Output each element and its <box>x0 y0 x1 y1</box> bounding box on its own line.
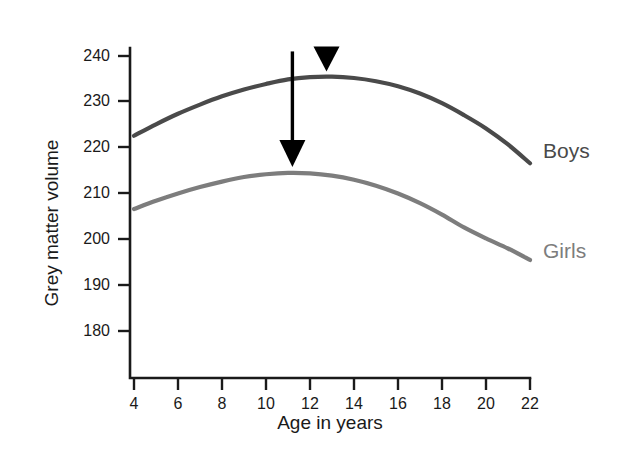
x-tick-label-16: 16 <box>389 396 407 412</box>
x-axis-title: Age in years <box>130 412 530 434</box>
y-tick-label-240: 240 <box>62 48 110 64</box>
x-tick-label-12: 12 <box>301 396 319 412</box>
y-axis-title: Grey matter volume <box>41 83 63 363</box>
peak-annotation-arrows <box>279 47 339 167</box>
x-tick-label-20: 20 <box>477 396 495 412</box>
series-curve-boys <box>134 77 530 164</box>
grey-matter-volume-chart: 240 230 220 210 200 190 180 4 6 8 10 12 … <box>0 0 631 461</box>
y-tick-label-230: 230 <box>62 93 110 109</box>
series-label-girls: Girls <box>543 240 586 261</box>
y-tick-label-200: 200 <box>62 231 110 247</box>
y-tick-label-220: 220 <box>62 139 110 155</box>
series-label-boys: Boys <box>543 140 590 161</box>
x-tick-label-6: 6 <box>174 396 183 412</box>
x-tick-label-22: 22 <box>521 396 539 412</box>
y-tick-label-180: 180 <box>62 323 110 339</box>
series-curve-girls <box>134 173 530 260</box>
axis-lines <box>130 48 530 378</box>
girls-peak-arrow <box>279 51 305 167</box>
x-axis-ticks <box>134 378 530 390</box>
x-tick-label-10: 10 <box>257 396 275 412</box>
y-tick-label-190: 190 <box>62 277 110 293</box>
x-tick-label-4: 4 <box>130 396 139 412</box>
x-tick-label-8: 8 <box>218 396 227 412</box>
y-axis-ticks <box>118 56 130 331</box>
x-tick-label-14: 14 <box>345 396 363 412</box>
x-tick-label-18: 18 <box>433 396 451 412</box>
boys-peak-arrow <box>314 47 340 72</box>
y-tick-label-210: 210 <box>62 185 110 201</box>
